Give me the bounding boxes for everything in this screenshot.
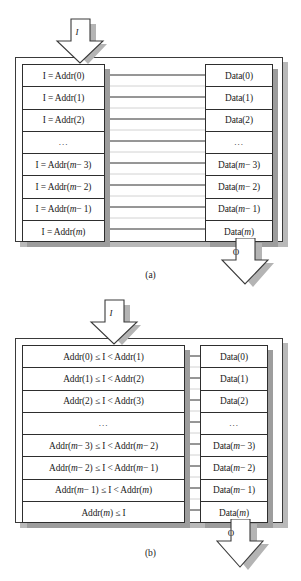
table-row: Data(m − 3) [201,435,267,457]
table-row: Addr(0) ≤ I < Addr(1) [23,346,184,368]
table-row: Addr(m − 2) ≤ I < Addr(m − 1) [23,457,184,479]
table-row: Addr(m − 3) ≤ I < Addr(m − 2) [23,435,184,457]
table-row: ... [23,132,104,154]
table-row: Data(m − 1) [201,480,267,502]
panel-a-caption: (a) [0,270,301,280]
table-row: I = Addr(1) [23,87,104,109]
table-row: Data(0) [201,346,267,368]
table-row: Data(1) [206,87,272,109]
table-row: Data(m − 1) [206,199,272,221]
panel-b-address-range-column: Addr(0) ≤ I < Addr(1)Addr(1) ≤ I < Addr(… [22,345,185,523]
panel-b-caption: (b) [0,548,301,558]
panel-a-input-arrow [50,17,108,65]
panel-b-input-arrow [84,298,142,346]
table-row: Addr(1) ≤ I < Addr(2) [23,368,184,390]
table-row: Data(1) [201,368,267,390]
table-row: I = Addr(2) [23,110,104,132]
panel-a-data-column: Data(0)Data(1)Data(2)...Data(m − 3)Data(… [205,64,273,242]
table-row: ... [206,132,272,154]
table-row: Addr(m − 1) ≤ I < Addr(m) [23,480,184,502]
table-row: Addr(m) ≤ I [23,502,184,524]
table-row: I = Addr(m − 1) [23,199,104,221]
table-row: Data(m − 2) [201,457,267,479]
panel-a-address-column: I = Addr(0)I = Addr(1)I = Addr(2)...I = … [22,64,105,242]
table-row: Data(2) [201,391,267,413]
table-row: Data(2) [206,110,272,132]
panel-b-output-arrow [209,519,271,571]
panel-a-output-arrow [214,238,276,288]
panel-b-input-label: I [100,309,122,318]
table-row: Addr(2) ≤ I < Addr(3) [23,391,184,413]
panel-a-input-label: I [66,28,88,37]
panel-b-output-label: O [220,529,242,538]
panel-a: I I = Addr(0)I = Addr(1)I = Addr(2)...I … [0,0,301,290]
panel-b-data-column: Data(0)Data(1)Data(2)...Data(m − 3)Data(… [200,345,268,523]
table-row: I = Addr(0) [23,65,104,87]
table-row: I = Addr(m − 2) [23,176,104,198]
panel-a-connectors [100,64,210,244]
table-row: Data(m − 3) [206,154,272,176]
table-row: I = Addr(m) [23,221,104,243]
table-row: ... [201,413,267,435]
table-row: I = Addr(m − 3) [23,154,104,176]
table-row: ... [23,413,184,435]
panel-b: I Addr(0) ≤ I < Addr(1)Addr(1) ≤ I < Add… [0,290,301,581]
panel-a-output-label: O [225,248,247,257]
table-row: Data(0) [206,65,272,87]
table-row: Data(m − 2) [206,176,272,198]
